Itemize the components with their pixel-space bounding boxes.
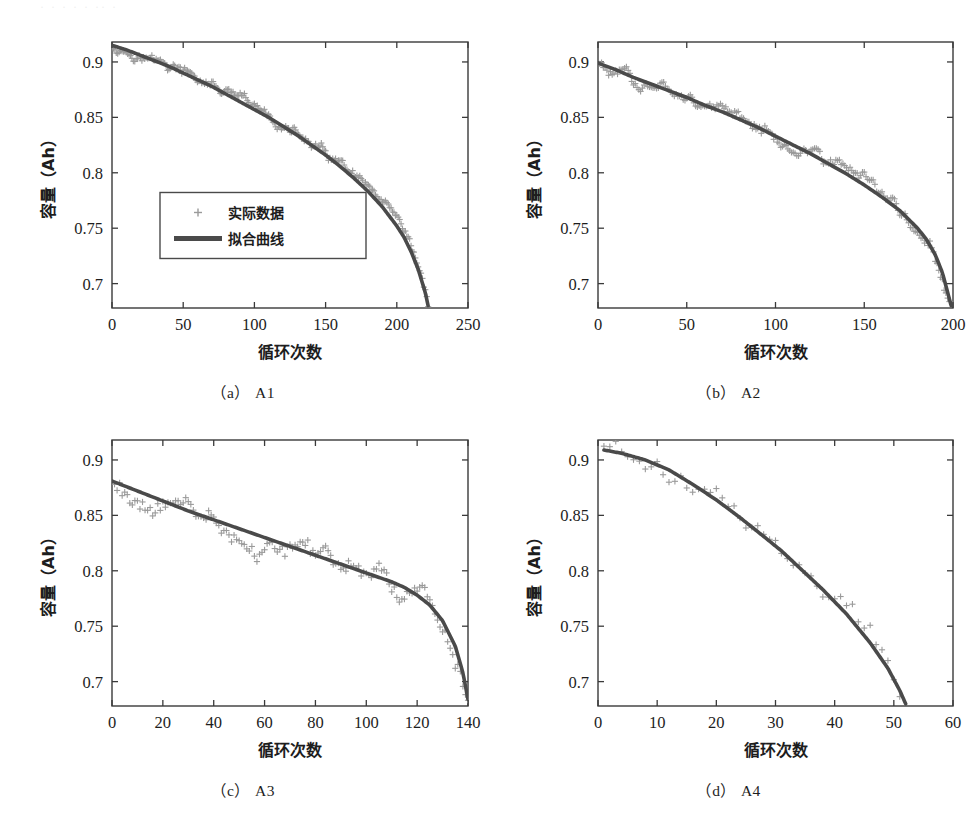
- plot-a4: 01020304050600.70.750.80.850.9循环次数容量（Ah）: [486, 412, 971, 760]
- panel-caption-a: （a）A1: [0, 380, 486, 402]
- y-tick-label: 0.9: [568, 451, 589, 470]
- y-tick-label: 0.8: [82, 562, 103, 581]
- y-tick-label: 0.8: [82, 164, 103, 183]
- axis-ticks: 01020304050600.70.750.80.850.9: [560, 440, 961, 732]
- fit-curve: [604, 450, 906, 704]
- x-tick-label: 60: [256, 713, 273, 732]
- chart-svg-a4: 01020304050600.70.750.80.850.9循环次数容量（Ah）: [486, 412, 971, 760]
- axis-ticks: 0501001502002500.70.750.80.850.9: [74, 42, 480, 334]
- y-tick-label: 0.9: [568, 53, 589, 72]
- plot-frame: [112, 42, 468, 308]
- axis-ticks: 0501001502000.70.750.80.850.9: [560, 42, 965, 334]
- x-tick-label: 80: [307, 713, 324, 732]
- x-tick-label: 100: [763, 315, 788, 334]
- panel-caption-b: （b）A2: [486, 380, 971, 402]
- chart-svg-a1: 0501001502002500.70.750.80.850.9循环次数容量（A…: [0, 14, 486, 362]
- legend-label-scatter: 实际数据: [228, 205, 284, 221]
- y-tick-label: 0.85: [74, 506, 103, 525]
- y-tick-label: 0.75: [74, 219, 103, 238]
- legend-label-line: 拟合曲线: [228, 231, 284, 247]
- plot-a1: 0501001502002500.70.750.80.850.9循环次数容量（A…: [0, 14, 486, 362]
- x-tick-label: 20: [155, 713, 172, 732]
- panel-caption-d: （d）A4: [486, 778, 971, 800]
- caption-paren-d: （d）: [696, 782, 736, 799]
- y-tick-label: 0.7: [568, 275, 589, 294]
- caption-id-c: A3: [255, 782, 275, 799]
- y-axis-title: 容量（Ah）: [525, 131, 544, 220]
- chart-svg-a3: 0204060801001201400.70.750.80.850.9循环次数容…: [0, 412, 486, 760]
- y-tick-label: 0.9: [82, 53, 103, 72]
- x-tick-label: 50: [679, 315, 696, 334]
- plot-a2: 0501001502000.70.750.80.850.9循环次数容量（Ah）: [486, 14, 971, 362]
- x-axis-title: 循环次数: [258, 343, 323, 362]
- x-axis-title: 循环次数: [744, 741, 809, 760]
- panel-a3: 0204060801001201400.70.750.80.850.9循环次数容…: [0, 412, 486, 824]
- plot-frame: [598, 42, 953, 308]
- caption-id-b: A2: [741, 384, 761, 401]
- x-tick-label: 40: [205, 713, 222, 732]
- x-tick-label: 0: [594, 315, 602, 334]
- x-tick-label: 100: [242, 315, 267, 334]
- x-tick-label: 200: [941, 315, 966, 334]
- x-tick-label: 120: [405, 713, 430, 732]
- panel-a2: 0501001502000.70.750.80.850.9循环次数容量（Ah） …: [486, 14, 971, 426]
- scatter-series: [601, 438, 903, 700]
- x-tick-label: 250: [456, 315, 481, 334]
- x-tick-label: 200: [384, 315, 409, 334]
- x-tick-label: 0: [108, 713, 116, 732]
- x-tick-label: 140: [456, 713, 481, 732]
- x-axis-title: 循环次数: [744, 343, 809, 362]
- y-tick-label: 0.75: [560, 617, 589, 636]
- plot-frame: [112, 440, 468, 706]
- x-tick-label: 10: [649, 713, 666, 732]
- y-tick-label: 0.7: [82, 673, 103, 692]
- x-tick-label: 50: [175, 315, 192, 334]
- y-tick-label: 0.8: [568, 562, 589, 581]
- x-tick-label: 0: [108, 315, 116, 334]
- y-tick-label: 0.85: [74, 108, 103, 127]
- fit-curve: [112, 45, 428, 305]
- x-tick-label: 150: [313, 315, 338, 334]
- y-tick-label: 0.7: [568, 673, 589, 692]
- x-axis-title: 循环次数: [258, 741, 323, 760]
- y-tick-label: 0.85: [560, 506, 589, 525]
- y-tick-label: 0.9: [82, 451, 103, 470]
- x-tick-label: 30: [767, 713, 784, 732]
- x-tick-label: 100: [354, 713, 379, 732]
- x-tick-label: 0: [594, 713, 602, 732]
- caption-paren-b: （b）: [696, 384, 736, 401]
- y-tick-label: 0.7: [82, 275, 103, 294]
- legend: 实际数据拟合曲线: [160, 192, 366, 258]
- y-axis-title: 容量（Ah）: [39, 529, 58, 618]
- y-axis-title: 容量（Ah）: [525, 529, 544, 618]
- scatter-series: [110, 45, 431, 309]
- caption-paren-c: （c）: [211, 782, 250, 799]
- chart-svg-a2: 0501001502000.70.750.80.850.9循环次数容量（Ah）: [486, 14, 971, 362]
- x-tick-label: 150: [852, 315, 877, 334]
- y-tick-label: 0.75: [560, 219, 589, 238]
- panel-a1: 0501001502002500.70.750.80.850.9循环次数容量（A…: [0, 14, 486, 426]
- y-tick-label: 0.75: [74, 617, 103, 636]
- y-tick-label: 0.85: [560, 108, 589, 127]
- figure-grid: 0501001502002500.70.750.80.850.9循环次数容量（A…: [0, 0, 971, 838]
- fit-curve: [598, 63, 951, 306]
- legend-box: [160, 192, 366, 258]
- x-tick-label: 50: [886, 713, 903, 732]
- caption-id-d: A4: [741, 782, 761, 799]
- caption-id-a: A1: [255, 384, 275, 401]
- y-tick-label: 0.8: [568, 164, 589, 183]
- y-axis-title: 容量（Ah）: [39, 131, 58, 220]
- scatter-series: [111, 480, 471, 704]
- panel-caption-c: （c）A3: [0, 778, 486, 800]
- x-tick-label: 20: [708, 713, 725, 732]
- panel-a4: 01020304050600.70.750.80.850.9循环次数容量（Ah）…: [486, 412, 971, 824]
- plot-frame: [598, 440, 953, 706]
- caption-paren-a: （a）: [211, 384, 250, 401]
- x-tick-label: 60: [945, 713, 962, 732]
- x-tick-label: 40: [826, 713, 843, 732]
- scatter-series: [597, 60, 953, 305]
- plot-a3: 0204060801001201400.70.750.80.850.9循环次数容…: [0, 412, 486, 760]
